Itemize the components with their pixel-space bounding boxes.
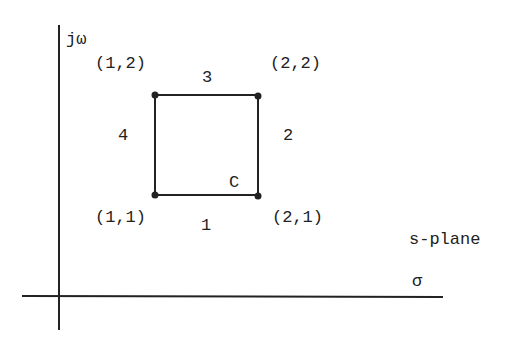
s-plane-diagram: jω σ s-plane (1,2) (2,2) (1,1) (2,1) 1 2…: [0, 0, 529, 340]
vertex-label-2-1: (2,1): [272, 208, 323, 227]
plane-label: s-plane: [409, 230, 480, 249]
vertex-label-2-2: (2,2): [270, 54, 321, 73]
side-label-2: 2: [283, 126, 293, 145]
contour-label: C: [229, 173, 239, 192]
side-label-3: 3: [202, 68, 212, 87]
vertex-dot-1-1: [152, 192, 159, 199]
real-axis: [22, 296, 443, 297]
real-axis-label: σ: [412, 272, 423, 291]
side-label-1: 1: [201, 216, 211, 235]
side-label-4: 4: [118, 126, 128, 145]
vertex-dot-1-2: [152, 92, 159, 99]
imaginary-axis-label: jω: [66, 30, 86, 49]
contour-square: [155, 95, 258, 195]
vertex-dot-2-2: [255, 93, 262, 100]
vertex-label-1-2: (1,2): [95, 54, 146, 73]
vertex-label-1-1: (1,1): [95, 208, 146, 227]
vertex-dot-2-1: [255, 193, 262, 200]
